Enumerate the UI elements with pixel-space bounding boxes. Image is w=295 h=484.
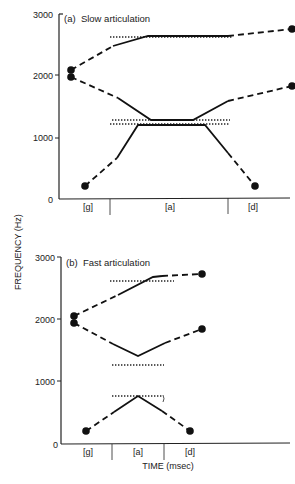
panel-a-f2 bbox=[67, 73, 295, 120]
panel-a-f3 bbox=[67, 25, 295, 74]
panel-a-tick-2000: 2000 bbox=[33, 71, 53, 81]
panel-b-tick-1000: 1000 bbox=[35, 377, 55, 387]
formant-transition-chart: 3000 2000 1000 0 [g] [a] [d] (a) Slow ar… bbox=[0, 0, 295, 484]
panel-b-tick-0: 0 bbox=[53, 440, 58, 450]
x-axis-label: TIME (msec) bbox=[142, 461, 194, 471]
panel-b-f3 bbox=[70, 270, 206, 320]
panel-a-tick-3000: 3000 bbox=[33, 10, 53, 20]
panel-a-seg-d: [d] bbox=[248, 202, 258, 212]
panel-a-title: (a) Slow articulation bbox=[64, 13, 150, 24]
panel-b: 3000 2000 1000 0 [g] [a] [d] TIME (msec)… bbox=[35, 253, 290, 471]
panel-b-seg-d: [d] bbox=[185, 447, 195, 457]
panel-a-seg-a: [a] bbox=[165, 202, 175, 212]
panel-a-tick-0: 0 bbox=[48, 195, 53, 205]
panel-b-seg-a: [a] bbox=[133, 447, 143, 457]
panel-b-title: (b) Fast articulation bbox=[66, 257, 150, 268]
panel-b-f1-bracket bbox=[163, 395, 164, 402]
panel-a-tick-1000: 1000 bbox=[33, 133, 53, 143]
panel-b-tick-3000: 3000 bbox=[35, 253, 55, 263]
panel-a: 3000 2000 1000 0 [g] [a] [d] (a) Slow ar… bbox=[33, 10, 295, 215]
panel-b-x-axis bbox=[61, 443, 290, 444]
panel-a-seg-g: [g] bbox=[83, 202, 93, 212]
panel-a-x-axis bbox=[59, 198, 290, 199]
y-axis-label: FREQUENCY (Hz) bbox=[13, 214, 23, 290]
panel-b-seg-g: [g] bbox=[83, 447, 93, 457]
panel-b-f1 bbox=[82, 396, 194, 435]
panel-a-f1 bbox=[81, 125, 259, 190]
panel-b-tick-2000: 2000 bbox=[35, 315, 55, 325]
panel-b-f2 bbox=[70, 319, 206, 356]
